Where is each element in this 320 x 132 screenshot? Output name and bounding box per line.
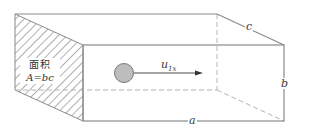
velocity-label: u1x bbox=[160, 59, 178, 73]
dimension-a-label: a bbox=[188, 115, 197, 126]
fluid-particle bbox=[115, 64, 134, 83]
dimension-b-label: b bbox=[280, 78, 289, 89]
velocity-arrow-head bbox=[195, 71, 203, 76]
area-title: 面积 bbox=[20, 58, 60, 71]
velocity-subscript: 1x bbox=[168, 65, 176, 73]
area-label: 面积 A=bc bbox=[20, 58, 60, 84]
area-formula: A=bc bbox=[20, 71, 60, 84]
dimension-c-label: c bbox=[245, 21, 253, 32]
